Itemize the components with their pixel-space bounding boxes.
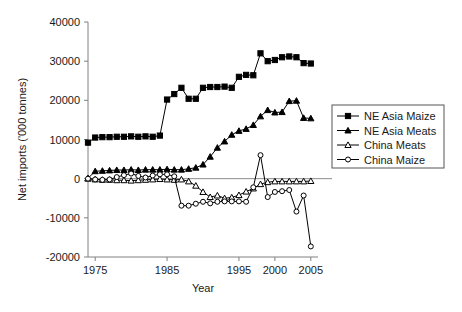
series-layer (85, 51, 314, 249)
data-point (287, 54, 292, 59)
data-point (136, 173, 141, 178)
data-point (93, 177, 98, 182)
legend-marker (346, 157, 351, 162)
data-point (93, 135, 98, 140)
data-point (272, 57, 277, 62)
x-tick-label: 1975 (83, 264, 107, 276)
data-point (272, 189, 277, 194)
data-point (294, 55, 299, 60)
data-point (157, 172, 162, 177)
data-point (193, 165, 199, 171)
x-tick-label: 1995 (227, 264, 251, 276)
data-point (121, 134, 126, 139)
y-tick-label: 40000 (49, 16, 80, 28)
data-point (215, 84, 220, 89)
data-point (129, 171, 134, 176)
data-point (301, 61, 306, 66)
legend-label: China Maize (364, 154, 425, 166)
data-point (229, 199, 234, 204)
y-tick-label: 0 (74, 173, 80, 185)
y-tick-label: 30000 (49, 55, 80, 67)
data-point (193, 201, 198, 206)
data-point (143, 134, 148, 139)
data-point (251, 185, 256, 190)
data-point (229, 132, 235, 138)
data-point (107, 135, 112, 140)
data-point (236, 192, 242, 198)
data-point (294, 209, 299, 214)
series-china-meats (85, 176, 314, 201)
data-point (165, 172, 170, 177)
chart-container: -20000-100000100002000030000400001975198… (0, 0, 462, 312)
data-point (258, 51, 263, 56)
data-point (107, 177, 112, 182)
series-ne-asia-maize (85, 51, 313, 146)
data-point (243, 188, 249, 194)
data-point (143, 175, 148, 180)
series-path (88, 155, 311, 246)
data-point (243, 126, 249, 132)
data-point (150, 134, 155, 139)
data-point (215, 199, 220, 204)
x-tick-label: 2005 (299, 264, 323, 276)
data-point (208, 201, 213, 206)
y-tick-label: 20000 (49, 94, 80, 106)
data-point (208, 84, 213, 89)
data-point (236, 199, 241, 204)
data-point (236, 74, 241, 79)
data-point (287, 188, 292, 193)
data-point (265, 195, 270, 200)
data-point (121, 173, 126, 178)
data-point (172, 91, 177, 96)
y-tick-label: -10000 (46, 212, 80, 224)
data-point (100, 135, 105, 140)
data-point (193, 183, 199, 189)
data-point (164, 97, 169, 102)
data-point (308, 244, 313, 249)
data-point (179, 85, 184, 90)
chart-legend: NE Asia MaizeNE Asia MeatsChina MeatsChi… (332, 105, 444, 168)
x-tick-label: 2000 (263, 264, 287, 276)
data-point (193, 96, 198, 101)
data-point (157, 133, 162, 138)
data-point (186, 96, 191, 101)
data-point (114, 175, 119, 180)
data-point (214, 192, 220, 198)
data-point (172, 174, 177, 179)
data-point (200, 85, 205, 90)
data-point (86, 176, 91, 181)
data-point (280, 189, 285, 194)
data-point (265, 59, 270, 64)
data-point (150, 173, 155, 178)
x-tick-label: 1985 (155, 264, 179, 276)
legend-label: China Meats (364, 139, 426, 151)
data-point (136, 134, 141, 139)
data-point (186, 203, 191, 208)
series-path (88, 53, 311, 142)
data-point (258, 153, 263, 158)
data-point (100, 177, 105, 182)
y-axis-title: Net imports ('000 tonnes) (16, 78, 28, 201)
x-axis-title: Year (192, 282, 215, 294)
data-point (308, 61, 313, 66)
legend-label: NE Asia Maize (364, 110, 436, 122)
y-tick-label: -20000 (46, 251, 80, 263)
data-point (222, 199, 227, 204)
data-point (114, 134, 119, 139)
data-point (279, 55, 284, 60)
data-point (229, 85, 234, 90)
legend-marker (345, 113, 350, 118)
data-point (201, 199, 206, 204)
data-point (129, 134, 134, 139)
data-point (265, 107, 271, 113)
legend-label: NE Asia Meats (364, 125, 437, 137)
data-point (244, 199, 249, 204)
data-point (301, 193, 306, 198)
data-point (179, 203, 184, 208)
data-point (85, 140, 90, 145)
data-point (244, 72, 249, 77)
data-point (222, 84, 227, 89)
data-point (251, 73, 256, 78)
line-chart: -20000-100000100002000030000400001975198… (0, 0, 462, 312)
y-tick-label: 10000 (49, 134, 80, 146)
